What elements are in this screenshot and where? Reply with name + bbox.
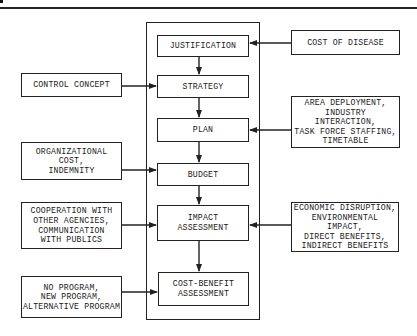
step-plan: PLAN (157, 118, 249, 142)
input-cost-of-disease: COST OF DISEASE (291, 30, 400, 55)
top-rule-divider (0, 7, 417, 9)
input-cooperation: COOPERATION WITH OTHER AGENCIES, COMMUNI… (21, 202, 122, 249)
input-program-options: NO PROGRAM, NEW PROGRAM, ALTERNATIVE PRO… (21, 276, 122, 318)
step-impact-assessment: IMPACT ASSESSMENT (157, 205, 249, 241)
input-control-concept: CONTROL CONCEPT (21, 73, 122, 97)
input-area-deployment: AREA DEPLOYMENT, INDUSTRY INTERACTION, T… (291, 96, 400, 148)
corner-mark (0, 0, 3, 3)
input-economic-disruption: ECONOMIC DISRUPTION, ENVIRONMENTAL IMPAC… (291, 202, 399, 252)
step-strategy: STRATEGY (157, 75, 249, 98)
step-cost-benefit-assessment: COST-BENEFIT ASSESSMENT (158, 272, 249, 306)
input-organizational-cost: ORGANIZATIONAL COST, INDEMNITY (21, 142, 122, 180)
step-justification: JUSTIFICATION (157, 35, 249, 57)
step-budget: BUDGET (157, 163, 249, 186)
